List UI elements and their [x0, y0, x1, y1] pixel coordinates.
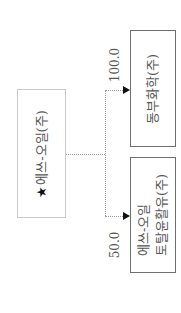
connector-trunk	[105, 90, 106, 216]
connector-trunk-to-top-child	[105, 90, 123, 91]
connector-trunk-to-bottom-child	[105, 216, 123, 217]
subsidiary-label-wrap: 에쓰-오일 토탈윤활유(주)	[135, 174, 171, 256]
root-company-label-wrap: ★에쓰-오일(주)	[33, 110, 51, 198]
root-company-label: 에쓰-오일(주)	[34, 110, 49, 185]
subsidiary-box-bottom: 에쓰-오일 토탈윤활유(주)	[130, 157, 176, 273]
ownership-diagram: ★에쓰-오일(주) 100.0 50.0 동부화학(주) 에쓰-오일 토탈윤활유…	[0, 0, 181, 313]
root-company-box: ★에쓰-오일(주)	[17, 89, 66, 218]
ownership-percent-bottom: 50.0	[108, 225, 122, 265]
subsidiary-label-line-2: 토탈윤활유(주)	[153, 174, 171, 256]
subsidiary-box-top: 동부화학(주)	[130, 30, 176, 147]
arrowhead-icon	[123, 86, 130, 94]
subsidiary-label: 동부화학(주)	[144, 53, 162, 123]
subsidiary-label-wrap: 동부화학(주)	[144, 53, 162, 123]
connector-root-to-trunk	[66, 154, 105, 155]
arrowhead-icon	[123, 212, 130, 220]
ownership-percent-top: 100.0	[108, 45, 122, 85]
subsidiary-label-line-1: 에쓰-오일	[135, 174, 153, 256]
star-icon: ★	[34, 185, 49, 197]
